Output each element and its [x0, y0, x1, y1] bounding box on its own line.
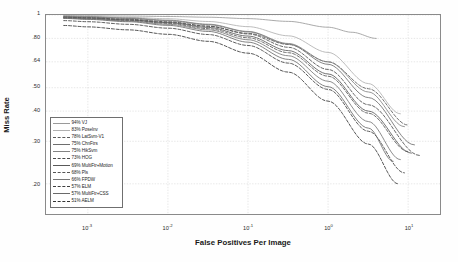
figure: 1.80.64.50.40.30.20 10-310-210-1100101 M…	[0, 0, 458, 262]
legend-item-label: 69% MultiFtr+Motion	[72, 164, 113, 169]
legend-item-label: 51% AELM	[72, 199, 94, 204]
legend-line-swatch	[53, 137, 70, 138]
legend-item-aelm[interactable]: 51% AELM	[51, 198, 122, 205]
x-tick-label: 10-3	[82, 224, 92, 231]
legend-line-swatch	[53, 193, 70, 194]
legend-line-swatch	[53, 130, 70, 131]
legend-item-multiftr-motion[interactable]: 69% MultiFtr+Motion	[51, 162, 122, 169]
legend-item-label: 57% MultiFtr+CSS	[72, 192, 109, 197]
legend-line-swatch	[53, 172, 70, 173]
y-tick-text: .40	[32, 108, 40, 114]
x-tick-label: 100	[324, 224, 333, 231]
legend-line-swatch	[53, 158, 70, 159]
legend-item-label: 68% Pls	[72, 171, 89, 176]
legend-item-chnftrs[interactable]: 75% ChnFtrs	[51, 141, 122, 148]
x-tick-label: 101	[405, 224, 414, 231]
legend-line-swatch	[53, 165, 70, 166]
y-tick-text: .20	[32, 182, 40, 188]
legend[interactable]: 94% VJ83% Poselnv78% LatSvm-V175% ChnFtr…	[50, 117, 123, 208]
y-tick-text: .80	[32, 35, 40, 41]
y-tick-text: 1	[37, 11, 40, 17]
legend-item-multiftr-css[interactable]: 57% MultiFtr+CSS	[51, 190, 122, 197]
legend-item-elm[interactable]: 57% ELM	[51, 183, 122, 190]
legend-item-label: 66% FPDW	[72, 178, 96, 183]
y-tick-text: .64	[32, 59, 40, 65]
legend-item-fpdw[interactable]: 66% FPDW	[51, 176, 122, 183]
legend-item-label: 78% LatSvm-V1	[72, 135, 105, 140]
legend-item-vj[interactable]: 94% VJ	[51, 120, 122, 127]
legend-line-swatch	[53, 201, 70, 202]
legend-line-swatch	[53, 144, 70, 145]
legend-item-label: 57% ELM	[72, 185, 92, 190]
y-tick-text: .50	[32, 85, 40, 91]
x-tick-label: 10-1	[243, 224, 253, 231]
legend-item-hiksvm[interactable]: 75% HikSvm	[51, 148, 122, 155]
legend-item-label: 83% Poselnv	[72, 128, 98, 133]
legend-item-label: 73% HOG	[72, 156, 93, 161]
x-axis-label: False Positives Per Image	[195, 238, 291, 247]
legend-item-poselnv[interactable]: 83% Poselnv	[51, 127, 122, 134]
legend-item-label: 94% VJ	[72, 121, 88, 126]
legend-item-label: 75% ChnFtrs	[72, 142, 98, 147]
legend-line-swatch	[53, 123, 70, 124]
legend-line-swatch	[53, 179, 70, 180]
y-tick-text: .30	[32, 139, 40, 145]
x-tick-label: 10-2	[163, 224, 173, 231]
legend-item-pls[interactable]: 68% Pls	[51, 169, 122, 176]
legend-item-latsvm-v1[interactable]: 78% LatSvm-V1	[51, 134, 122, 141]
legend-item-label: 75% HikSvm	[72, 149, 98, 154]
legend-line-swatch	[53, 186, 70, 187]
y-axis-label: Miss Rate	[2, 97, 11, 132]
legend-line-swatch	[53, 151, 70, 152]
legend-item-hog[interactable]: 73% HOG	[51, 155, 122, 162]
